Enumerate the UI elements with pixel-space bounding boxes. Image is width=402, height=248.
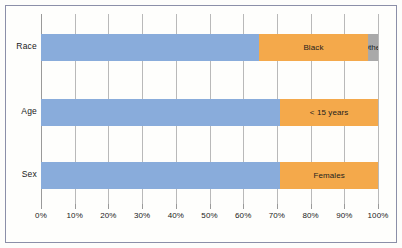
bar-segment-sex-0 — [41, 162, 280, 189]
category-axis-labels: Race Age Sex — [0, 14, 37, 204]
tickmark-10% — [75, 204, 76, 209]
bar-segment-sex-1: Females — [280, 162, 378, 189]
category-label-race: Race — [3, 41, 37, 51]
plot-area: BlackOther< 15 yearsFemales — [41, 14, 378, 204]
bar-rows: BlackOther< 15 yearsFemales — [41, 14, 378, 204]
bar-row-age: < 15 years — [41, 99, 378, 126]
tickmark-50% — [210, 204, 211, 209]
bar-segment-race-2: Other — [368, 34, 378, 61]
tickmark-0% — [41, 204, 42, 209]
chart-figure: Race Age Sex BlackOther< 15 yearsFemales… — [0, 0, 402, 248]
category-label-sex: Sex — [3, 169, 37, 179]
tick-label-50%: 50% — [201, 211, 217, 220]
tick-label-100%: 100% — [368, 211, 389, 220]
tick-label-20%: 20% — [100, 211, 116, 220]
tick-label-90%: 90% — [336, 211, 352, 220]
tickmark-60% — [243, 204, 244, 209]
tickmark-100% — [378, 204, 379, 209]
tick-label-30%: 30% — [134, 211, 150, 220]
tick-label-60%: 60% — [235, 211, 251, 220]
tick-label-40%: 40% — [168, 211, 184, 220]
tickmark-40% — [176, 204, 177, 209]
bar-row-sex: Females — [41, 162, 378, 189]
tick-label-0%: 0% — [35, 211, 47, 220]
bar-segment-race-1: Black — [259, 34, 368, 61]
tick-label-80%: 80% — [302, 211, 318, 220]
bar-row-race: BlackOther — [41, 34, 378, 61]
tickmark-20% — [108, 204, 109, 209]
bar-segment-age-1: < 15 years — [280, 99, 378, 126]
tick-label-70%: 70% — [269, 211, 285, 220]
category-label-age: Age — [3, 106, 37, 116]
tickmark-80% — [311, 204, 312, 209]
tick-label-10%: 10% — [67, 211, 83, 220]
tickmark-70% — [277, 204, 278, 209]
bar-segment-age-0 — [41, 99, 280, 126]
tickmark-90% — [344, 204, 345, 209]
tickmark-30% — [142, 204, 143, 209]
x-axis-ticks: 0%10%20%30%40%50%60%70%80%90%100% — [41, 204, 378, 226]
bar-segment-race-0 — [41, 34, 259, 61]
